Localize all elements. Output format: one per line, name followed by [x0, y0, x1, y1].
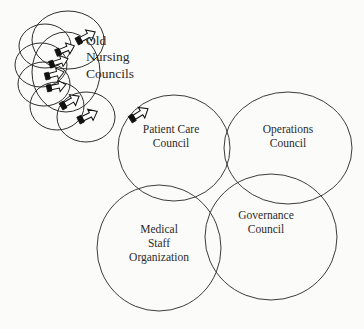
- patient-care-council-shape[interactable]: [118, 95, 230, 201]
- arrow-1: [74, 26, 98, 47]
- old-nursing-councils-cluster: [15, 11, 115, 142]
- arrow-5: [46, 79, 67, 94]
- diagram-svg: [0, 0, 364, 329]
- medical-staff-organization-shape[interactable]: [97, 185, 221, 311]
- governance-council-shape[interactable]: [205, 174, 337, 300]
- diagram-canvas: Old Nursing Councils Patient Care Counci…: [0, 0, 364, 329]
- old-council-circle-1: [32, 11, 104, 69]
- operations-council-shape[interactable]: [224, 92, 352, 204]
